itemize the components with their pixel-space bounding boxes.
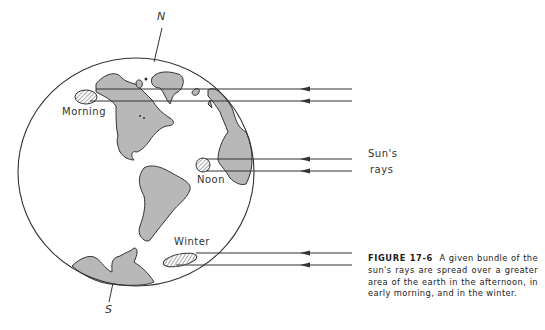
- morning-area: [75, 90, 97, 104]
- north-axis-line: [154, 28, 162, 62]
- figure-caption: FIGURE 17-6 A given bundle of the sun's …: [368, 253, 538, 300]
- south-label: S: [105, 303, 112, 316]
- south-axis-line: [109, 283, 113, 302]
- arrowheads: [300, 87, 310, 268]
- noon-label: Noon: [197, 174, 225, 185]
- winter-label: Winter: [174, 236, 210, 247]
- noon-area: [196, 158, 210, 172]
- suns-rays-label-line1: Sun's: [368, 148, 397, 159]
- morning-label: Morning: [62, 106, 106, 117]
- north-label: N: [157, 10, 166, 23]
- south-america: [139, 166, 190, 241]
- suns-rays-label-line2: rays: [370, 164, 393, 175]
- winter-area: [162, 251, 198, 270]
- antarctica: [72, 248, 154, 285]
- greenland: [151, 72, 183, 104]
- figure-number: FIGURE 17-6: [368, 253, 433, 263]
